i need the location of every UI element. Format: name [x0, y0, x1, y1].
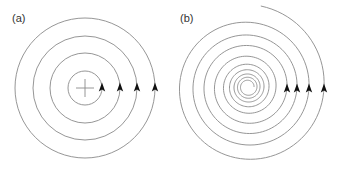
plus-charge-icon: [76, 79, 94, 97]
panel-a-concentric-circles: [15, 18, 158, 158]
spiral-field-line: [180, 6, 325, 159]
panel-b-spiral: [180, 6, 328, 159]
diagram-canvas: [0, 0, 342, 173]
